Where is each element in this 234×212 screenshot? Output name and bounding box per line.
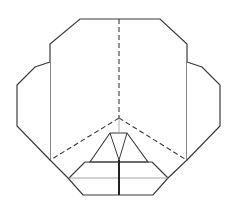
- left-flap-outline: [17, 62, 50, 160]
- origami-diagram-canvas: [0, 0, 234, 212]
- origami-diagram: [0, 0, 234, 212]
- right-flap-outline: [187, 62, 220, 160]
